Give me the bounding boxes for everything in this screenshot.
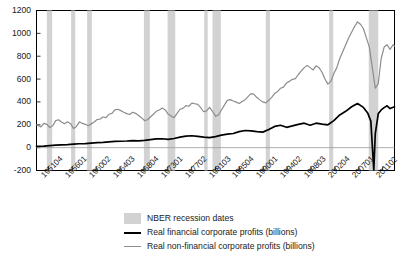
legend-label-financial: Real financial corporate profits (billio…: [147, 228, 297, 237]
x-axis-tick-label: 201102: [375, 156, 399, 180]
legend-label-recession: NBER recession dates: [147, 214, 233, 223]
x-axis-tick-label: 195601: [64, 155, 89, 180]
legend-swatch-financial-line: [124, 227, 141, 238]
legend-item-financial: Real financial corporate profits (billio…: [124, 226, 384, 239]
x-axis-tick-label: 200701: [351, 155, 376, 180]
x-axis-tick-label: 199402: [279, 155, 304, 180]
x-axis-tick-label: 196403: [112, 155, 137, 180]
x-axis-tick-label: 197301: [160, 155, 185, 180]
x-axis-tick-label: 198504: [231, 155, 256, 180]
x-axis-tick-label: 199001: [255, 155, 280, 180]
chart-legend: NBER recession dates Real financial corp…: [124, 212, 384, 254]
x-axis-tick-label: 196002: [88, 155, 113, 180]
x-axis-tick-label: 200204: [327, 155, 352, 180]
x-axis-tick-label: 197702: [184, 155, 209, 180]
legend-item-recession: NBER recession dates: [124, 212, 384, 225]
x-axis-tick-label: 195104: [40, 155, 65, 180]
legend-item-nonfinancial: Real non-financial corporate profits (bi…: [124, 240, 384, 253]
chart-root: 120010008006004002000-200 19510419560119…: [0, 0, 402, 258]
legend-swatch-nonfinancial-line: [124, 241, 141, 252]
x-axis-tick-label: 196804: [136, 155, 161, 180]
x-axis-tick-label: 198103: [208, 155, 233, 180]
x-axis-tick-label: 199803: [303, 155, 328, 180]
legend-swatch-recession-band: [124, 213, 141, 224]
legend-label-nonfinancial: Real non-financial corporate profits (bi…: [147, 242, 315, 251]
